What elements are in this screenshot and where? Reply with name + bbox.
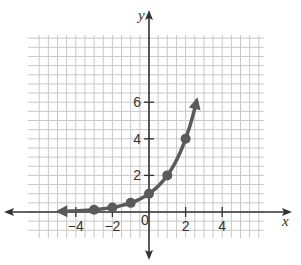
data-point bbox=[126, 198, 136, 208]
data-point bbox=[181, 134, 191, 144]
data-point bbox=[89, 205, 99, 215]
x-tick-label: 4 bbox=[218, 218, 226, 234]
origin-label: 0 bbox=[141, 212, 149, 228]
data-point bbox=[162, 170, 172, 180]
y-tick-label: 6 bbox=[133, 94, 141, 110]
x-tick-label: 2 bbox=[182, 218, 190, 234]
y-axis-label: y bbox=[136, 7, 145, 23]
exponential-graph: −4−224246 x y 0 bbox=[0, 0, 301, 265]
y-tick-label: 4 bbox=[133, 131, 141, 147]
data-point bbox=[144, 189, 154, 199]
x-tick-label: −2 bbox=[104, 218, 120, 234]
y-tick-label: 2 bbox=[133, 167, 141, 183]
x-axis-label: x bbox=[281, 213, 289, 229]
data-point bbox=[107, 202, 117, 212]
x-tick-label: −4 bbox=[68, 218, 84, 234]
